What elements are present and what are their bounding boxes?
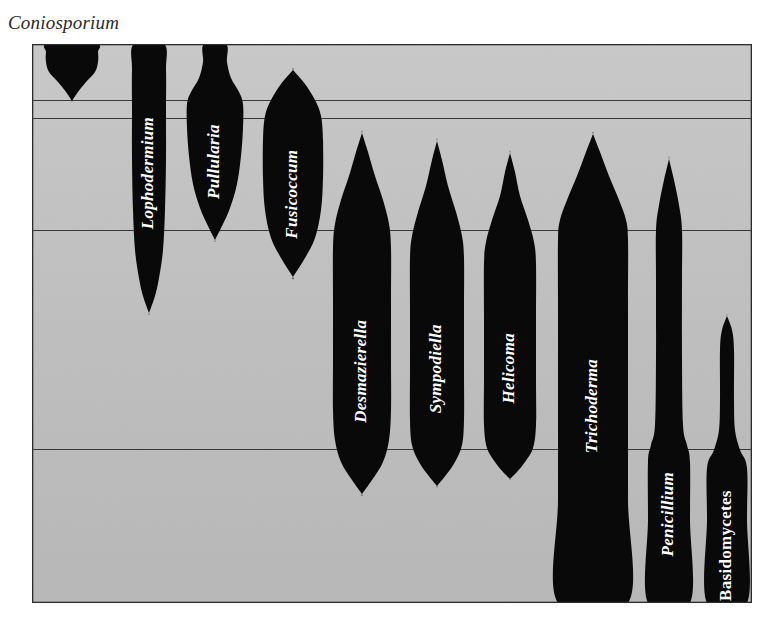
violin-label: Fusicoccum <box>282 150 301 240</box>
violin-label: Trichoderma <box>582 359 601 453</box>
violin-label: Basidomycetes <box>716 490 735 601</box>
plot-area: LophodermiumPullulariaFusicoccumDesmazie… <box>32 44 752 603</box>
violin-label: Desmazierella <box>351 320 370 424</box>
plot-svg: LophodermiumPullulariaFusicoccumDesmazie… <box>32 44 752 603</box>
violin-label: Sympodiella <box>426 324 445 413</box>
kite-diagram-figure: Coniosporium <box>0 0 784 620</box>
figure-title: Coniosporium <box>8 12 119 34</box>
violin-label: Penicillium <box>658 472 677 558</box>
violin-label: Pullularia <box>204 124 223 200</box>
violin-label: Helicoma <box>499 333 518 405</box>
violin-label: Lophodermium <box>138 117 157 230</box>
